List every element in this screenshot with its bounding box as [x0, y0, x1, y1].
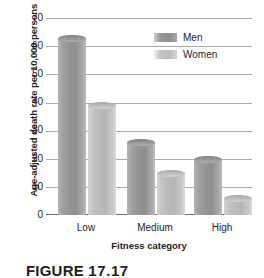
figure-container: Age-adjusted death rate per 10,000 perso… [0, 0, 264, 278]
x-axis-title: Fitness category [46, 240, 252, 251]
x-axis-tick-label-high: High [194, 222, 250, 233]
x-axis-tick-label-low: Low [58, 222, 114, 233]
bar-low-men[interactable] [58, 38, 86, 215]
bar-high-men[interactable] [194, 159, 222, 215]
bar-medium-men[interactable] [127, 142, 155, 215]
bar-cap [194, 156, 222, 163]
y-axis-tick-label: 30 [23, 125, 43, 135]
legend-label-men: Men [183, 33, 202, 43]
legend-item-women[interactable]: Women [154, 47, 254, 62]
bar-cap [58, 35, 86, 42]
legend-label-women: Women [183, 50, 217, 60]
y-axis-tick-label: 50 [23, 69, 43, 79]
y-axis-tick-label: 70 [23, 13, 43, 23]
figure-caption: FIGURE 17.17 [26, 262, 129, 278]
y-axis-tick-label: 40 [23, 97, 43, 107]
figure-caption-label: FIGURE [26, 262, 84, 278]
legend-item-men[interactable]: Men [154, 30, 254, 45]
y-axis-tick-label: 0 [23, 210, 43, 220]
legend-swatch-men-icon [154, 33, 177, 42]
x-axis-tick-label-medium: Medium [127, 222, 183, 233]
legend-swatch-women-icon [154, 50, 177, 59]
bar-cap [157, 170, 185, 177]
gridline-70 [46, 18, 252, 19]
y-axis-tick-label: 20 [23, 154, 43, 164]
bar-low-women[interactable] [88, 105, 116, 215]
bar-high-women[interactable] [224, 198, 252, 215]
figure-caption-number: 17.17 [88, 262, 129, 278]
bar-medium-women[interactable] [157, 173, 185, 215]
bar-cap [224, 195, 252, 202]
bar-cap [88, 102, 116, 109]
legend: Men Women [154, 30, 254, 64]
y-axis-tick-label: 10 [23, 182, 43, 192]
bar-cap [127, 139, 155, 146]
y-axis-tick-label: 60 [23, 41, 43, 51]
